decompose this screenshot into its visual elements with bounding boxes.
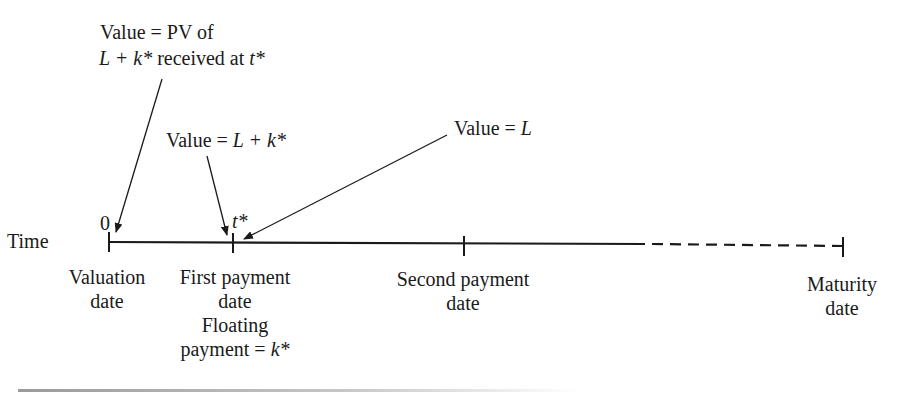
- label-valuation-date: Valuation date: [69, 265, 146, 313]
- math-l-plus-k: L + k*: [99, 47, 152, 69]
- math-kstar: k*: [271, 338, 290, 360]
- arrow-lk-to-tstar: [207, 156, 227, 235]
- annotation-pv-mid: received at: [152, 47, 249, 69]
- label-first-payment-line1: First payment: [180, 265, 291, 289]
- label-second-payment-line1: Second payment: [397, 267, 530, 291]
- label-valuation-line1: Valuation: [69, 265, 146, 289]
- annotation-value-l: Value = L: [454, 116, 532, 140]
- label-maturity-line2: date: [807, 296, 877, 320]
- annotation-value-l-plus-k: Value = L + k*: [166, 128, 286, 152]
- label-second-payment-date: Second payment date: [397, 267, 530, 315]
- label-maturity-line1: Maturity: [807, 272, 877, 296]
- timeline-solid: [109, 242, 645, 244]
- timeline-dashed: [652, 244, 843, 246]
- arrow-pv-to-origin: [116, 79, 162, 232]
- math-tstar: t*: [249, 47, 265, 69]
- annotation-value-prefix-2: Value =: [454, 117, 521, 139]
- label-second-payment-line2: date: [397, 291, 530, 315]
- label-valuation-line2: date: [69, 289, 146, 313]
- bottom-rule: [18, 389, 578, 392]
- label-floating-line: Floating: [180, 313, 291, 337]
- math-l-plus-k-2: L + k*: [233, 129, 286, 151]
- annotation-pv-line2: L + k* received at t*: [99, 46, 265, 70]
- label-first-payment-line2: date: [180, 289, 291, 313]
- label-first-payment-date: First payment date Floating payment = k*: [180, 265, 291, 361]
- annotation-pv-text1: Value = PV of: [100, 21, 214, 43]
- annotation-value-prefix: Value =: [166, 129, 233, 151]
- tick-label-tstar: t*: [232, 209, 248, 233]
- label-floating-payment: payment = k*: [180, 337, 291, 361]
- tick-label-zero: 0: [100, 211, 110, 235]
- annotation-pv-line1: Value = PV of: [100, 20, 214, 44]
- label-maturity-date: Maturity date: [807, 272, 877, 320]
- label-floating-payment-prefix: payment =: [180, 338, 270, 360]
- axis-label-time: Time: [7, 229, 49, 253]
- math-l: L: [521, 117, 532, 139]
